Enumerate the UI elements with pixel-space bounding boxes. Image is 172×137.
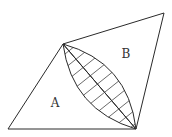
- region-label-b: B: [122, 47, 131, 61]
- diagram-canvas: A B: [0, 0, 172, 137]
- region-label-a: A: [50, 96, 60, 110]
- geometry-figure: A B: [0, 0, 172, 137]
- triangle-a: [8, 44, 136, 129]
